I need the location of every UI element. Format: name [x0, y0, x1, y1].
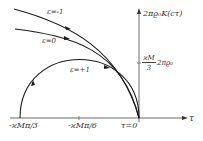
- x-tick-label: -ϰMπ/3: [9, 122, 38, 130]
- y-tick-factor: 2πϱ₀: [157, 60, 173, 67]
- y-axis-arrow-icon: [137, 8, 141, 14]
- curve-label: ε=+1: [70, 67, 90, 74]
- x-tick-label: -ϰMπ/6: [68, 122, 97, 130]
- curve-label: ε=0: [42, 38, 56, 45]
- x-axis-label: τ: [189, 114, 194, 123]
- y-tick-numerator: ϰM: [142, 55, 156, 63]
- arrow-icon: [64, 36, 70, 40]
- arrow-icon: [65, 26, 71, 30]
- y-tick-denominator: 3: [142, 65, 156, 72]
- y-axis-label: 2πϱ₀K(cτ): [143, 10, 182, 18]
- x-axis-arrow-icon: [182, 116, 188, 120]
- curve-eps-minus1: [14, 9, 139, 118]
- x-tick-label: τ=0: [121, 122, 137, 130]
- diagram-canvas: [0, 0, 203, 141]
- curve-label: ε=-1: [47, 9, 63, 16]
